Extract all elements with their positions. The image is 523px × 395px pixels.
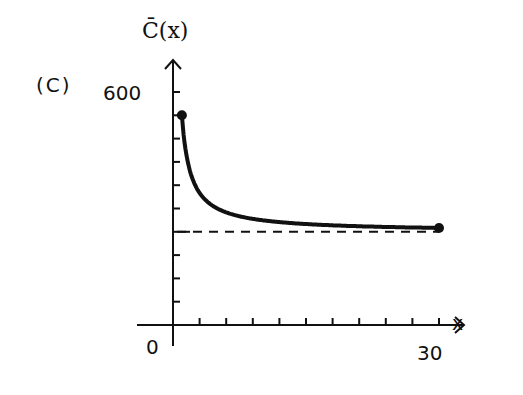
cost-curve xyxy=(182,115,439,228)
start-point-marker xyxy=(177,110,187,120)
chart-plot xyxy=(0,0,523,395)
axes xyxy=(137,60,464,346)
series xyxy=(177,110,444,233)
